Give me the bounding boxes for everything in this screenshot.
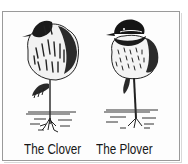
plover-bird-icon <box>104 20 158 128</box>
caption-plover: The Plover <box>96 140 153 157</box>
clover-bird-icon <box>22 21 79 132</box>
caption-clover: The Clover <box>24 140 81 157</box>
